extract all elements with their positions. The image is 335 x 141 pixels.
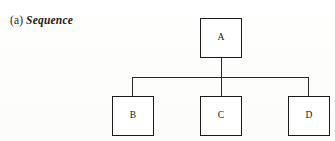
edge-bus-to-d-vertical	[308, 77, 309, 96]
edge-horizontal-bus	[132, 77, 308, 78]
node-d-label: D	[305, 111, 312, 121]
node-b[interactable]: B	[112, 96, 154, 136]
node-c[interactable]: C	[200, 96, 242, 136]
figure-sequence: (a)Sequence A B C D	[0, 0, 335, 141]
node-a[interactable]: A	[200, 18, 242, 58]
node-a-label: A	[217, 33, 224, 43]
node-d[interactable]: D	[288, 96, 330, 136]
node-c-label: C	[218, 111, 225, 121]
edge-bus-to-b-vertical	[132, 77, 133, 96]
caption-text: Sequence	[26, 14, 73, 26]
node-b-label: B	[130, 111, 137, 121]
figure-caption: (a)Sequence	[10, 13, 73, 27]
caption-index: (a)	[10, 14, 23, 26]
